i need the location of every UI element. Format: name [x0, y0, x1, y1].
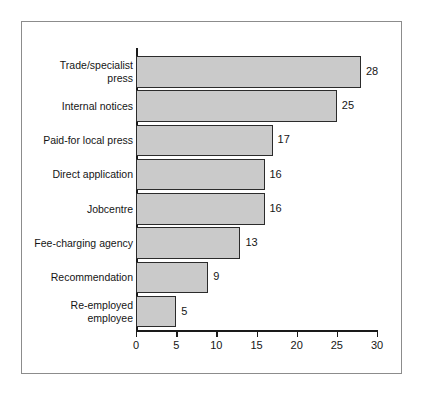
- bar-value-1: 25: [342, 99, 354, 112]
- x-tick-label-0: 0: [121, 339, 151, 352]
- plot-area: 0 5 10 15 20 25 30 Trade/specialist pres…: [0, 0, 423, 396]
- x-tick-mark: [136, 331, 137, 337]
- bar-value-6: 9: [213, 270, 219, 283]
- category-label-wrap: Jobcentre: [8, 193, 133, 225]
- bar-6: [136, 262, 208, 294]
- bar-value-7: 5: [181, 305, 187, 318]
- category-label-6: Recommendation: [13, 271, 133, 284]
- x-tick-label-2: 10: [201, 339, 231, 352]
- category-label-4: Jobcentre: [13, 203, 133, 216]
- category-label-wrap: Internal notices: [8, 90, 133, 122]
- x-tick-mark: [297, 331, 298, 337]
- bar-4: [136, 193, 265, 225]
- category-label-wrap: Fee-charging agency: [8, 227, 133, 259]
- category-label-0: Trade/specialist press: [13, 59, 133, 84]
- bar-value-3: 16: [270, 168, 282, 181]
- category-label-3: Direct application: [13, 168, 133, 181]
- category-label-wrap: Paid-for local press: [8, 125, 133, 157]
- category-label-1: Internal notices: [13, 100, 133, 113]
- x-tick-label-3: 15: [242, 339, 272, 352]
- x-tick-label-4: 20: [282, 339, 312, 352]
- chart-figure: 0 5 10 15 20 25 30 Trade/specialist pres…: [0, 0, 423, 396]
- x-tick-mark: [257, 331, 258, 337]
- x-tick-label-1: 5: [161, 339, 191, 352]
- x-tick-label-6: 30: [362, 339, 392, 352]
- bar-2: [136, 125, 273, 157]
- bar-value-2: 17: [278, 133, 290, 146]
- category-label-wrap: Re-employed employee: [8, 296, 133, 328]
- category-label-wrap: Direct application: [8, 159, 133, 191]
- bar-value-0: 28: [366, 65, 378, 78]
- category-label-5: Fee-charging agency: [13, 237, 133, 250]
- bar-1: [136, 90, 337, 122]
- category-label-2: Paid-for local press: [13, 134, 133, 147]
- x-tick-label-5: 25: [322, 339, 352, 352]
- x-tick-mark: [377, 331, 378, 337]
- bar-3: [136, 159, 265, 191]
- bar-5: [136, 227, 240, 259]
- bar-value-5: 13: [245, 236, 257, 249]
- category-label-wrap: Recommendation: [8, 262, 133, 294]
- category-label-7: Re-employed employee: [13, 299, 133, 324]
- x-tick-mark: [337, 331, 338, 337]
- bar-7: [136, 296, 176, 328]
- x-tick-mark: [216, 331, 217, 337]
- bar-value-4: 16: [270, 202, 282, 215]
- category-label-wrap: Trade/specialist press: [8, 56, 133, 88]
- bar-0: [136, 56, 361, 88]
- x-tick-mark: [176, 331, 177, 337]
